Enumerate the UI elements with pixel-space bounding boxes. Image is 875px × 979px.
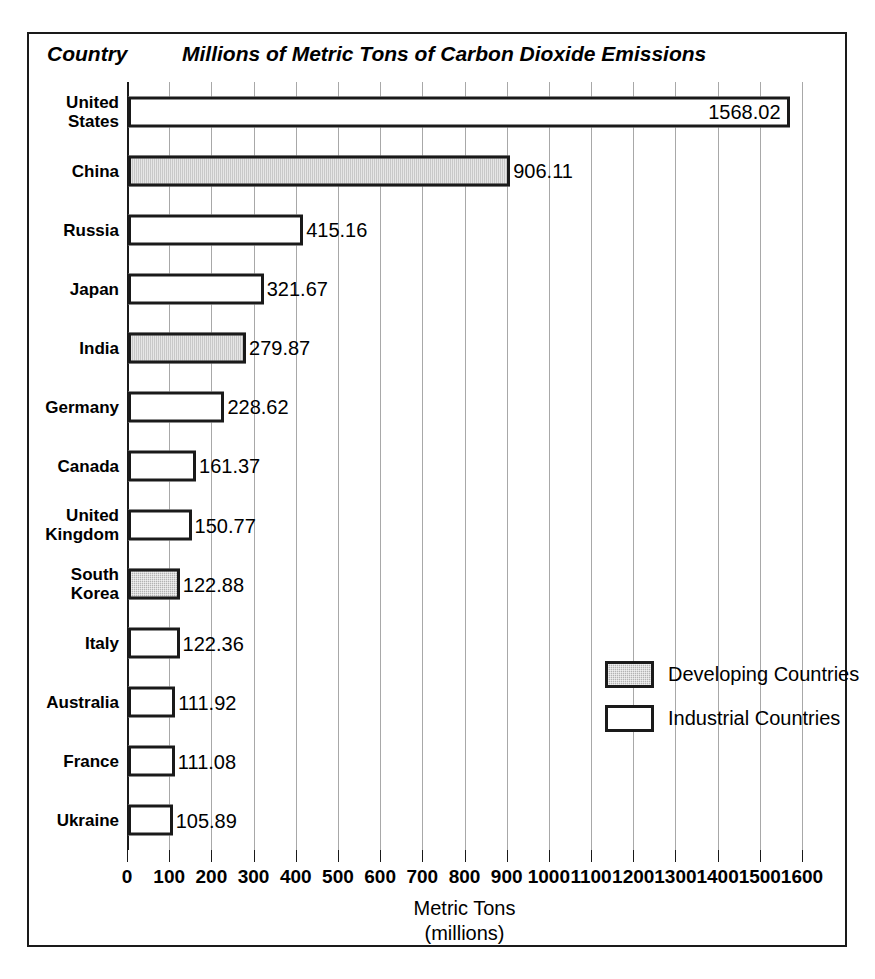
category-label-india: India — [27, 338, 119, 357]
x-tick-label-900: 900 — [491, 866, 523, 888]
bar-row: United Kingdom150.77 — [127, 496, 802, 555]
x-tick-label-400: 400 — [280, 866, 312, 888]
category-label-france: France — [27, 752, 119, 771]
x-axis-tick-labels: 0100200300400500600700800900100011001200… — [127, 866, 802, 892]
x-axis-ticks — [127, 850, 802, 864]
x-tick-label-1500: 1500 — [739, 866, 781, 888]
tick-mark-800 — [465, 850, 466, 862]
bar-row: Canada161.37 — [127, 436, 802, 495]
bar-row: United States1568.02 — [127, 82, 802, 141]
category-label-china: China — [27, 161, 119, 180]
bar-value-japan: 321.67 — [267, 279, 328, 299]
x-tick-label-300: 300 — [238, 866, 270, 888]
x-tick-label-100: 100 — [153, 866, 185, 888]
bar-value-united-kingdom: 150.77 — [195, 515, 256, 535]
x-axis-title-line1: Metric Tons — [127, 896, 802, 921]
x-axis-title: Metric Tons (millions) — [127, 896, 802, 946]
tick-mark-1500 — [760, 850, 761, 862]
bar-value-united-states: 1568.02 — [708, 102, 780, 122]
tick-mark-1600 — [802, 850, 803, 862]
tick-mark-500 — [338, 850, 339, 862]
category-label-ukraine: Ukraine — [27, 811, 119, 830]
bar-value-south-korea: 122.88 — [183, 574, 244, 594]
tick-mark-1200 — [633, 850, 634, 862]
tick-mark-700 — [422, 850, 423, 862]
chart-frame: Country Millions of Metric Tons of Carbo… — [27, 32, 847, 947]
bar-united-kingdom: 150.77 — [128, 510, 192, 541]
bar-row: India279.87 — [127, 318, 802, 377]
bar-row: China906.11 — [127, 141, 802, 200]
tick-mark-1400 — [718, 850, 719, 862]
legend-label-industrial: Industrial Countries — [668, 707, 840, 730]
tick-mark-200 — [211, 850, 212, 862]
tick-mark-0 — [127, 850, 128, 862]
x-axis-title-line2: (millions) — [127, 921, 802, 946]
x-tick-label-500: 500 — [322, 866, 354, 888]
category-label-russia: Russia — [27, 220, 119, 239]
x-tick-label-1200: 1200 — [612, 866, 654, 888]
bar-france: 111.08 — [128, 746, 175, 777]
x-tick-label-1300: 1300 — [654, 866, 696, 888]
x-tick-label-800: 800 — [449, 866, 481, 888]
x-tick-label-0: 0 — [122, 866, 133, 888]
category-label-japan: Japan — [27, 279, 119, 298]
category-label-united-kingdom: United Kingdom — [27, 506, 119, 544]
category-label-australia: Australia — [27, 693, 119, 712]
category-label-south-korea: South Korea — [27, 565, 119, 603]
x-tick-label-600: 600 — [364, 866, 396, 888]
country-column-header: Country — [47, 42, 128, 66]
bar-united-states: 1568.02 — [128, 96, 790, 127]
tick-mark-1000 — [549, 850, 550, 862]
bar-australia: 111.92 — [128, 687, 175, 718]
legend-swatch-developing — [605, 661, 654, 688]
legend-label-developing: Developing Countries — [668, 663, 859, 686]
bar-row: Russia415.16 — [127, 200, 802, 259]
legend-item: Industrial Countries — [605, 696, 875, 740]
tick-mark-1100 — [591, 850, 592, 862]
bar-germany: 228.62 — [128, 391, 224, 422]
bar-row: France111.08 — [127, 732, 802, 791]
bar-italy: 122.36 — [128, 628, 180, 659]
bar-china: 906.11 — [128, 155, 510, 186]
x-tick-label-1000: 1000 — [528, 866, 570, 888]
chart-title: Millions of Metric Tons of Carbon Dioxid… — [182, 42, 706, 66]
bar-value-australia: 111.92 — [178, 692, 236, 712]
tick-mark-300 — [254, 850, 255, 862]
tick-mark-900 — [507, 850, 508, 862]
x-tick-label-200: 200 — [196, 866, 228, 888]
x-tick-label-1100: 1100 — [570, 866, 611, 888]
x-tick-label-700: 700 — [406, 866, 438, 888]
legend-swatch-industrial — [605, 705, 654, 732]
bar-row: Japan321.67 — [127, 259, 802, 318]
category-label-united-states: United States — [27, 93, 119, 131]
bar-south-korea: 122.88 — [128, 569, 180, 600]
bar-value-germany: 228.62 — [227, 397, 288, 417]
category-label-italy: Italy — [27, 634, 119, 653]
bar-value-france: 111.08 — [178, 751, 236, 771]
legend-item: Developing Countries — [605, 652, 875, 696]
category-label-germany: Germany — [27, 397, 119, 416]
bar-value-ukraine: 105.89 — [176, 810, 237, 830]
tick-mark-100 — [169, 850, 170, 862]
tick-mark-1300 — [675, 850, 676, 862]
bar-canada: 161.37 — [128, 450, 196, 481]
bar-value-india: 279.87 — [249, 338, 310, 358]
bar-russia: 415.16 — [128, 214, 303, 245]
x-tick-label-1400: 1400 — [696, 866, 738, 888]
bar-japan: 321.67 — [128, 273, 264, 304]
tick-mark-400 — [296, 850, 297, 862]
tick-mark-600 — [380, 850, 381, 862]
bar-value-china: 906.11 — [513, 161, 573, 181]
x-tick-label-1600: 1600 — [781, 866, 823, 888]
bar-india: 279.87 — [128, 332, 246, 363]
category-label-canada: Canada — [27, 456, 119, 475]
bar-ukraine: 105.89 — [128, 805, 173, 836]
bar-row: Germany228.62 — [127, 377, 802, 436]
chart-legend: Developing CountriesIndustrial Countries — [605, 652, 875, 740]
plot-area: United States1568.02China906.11Russia415… — [127, 82, 802, 850]
bar-row: South Korea122.88 — [127, 555, 802, 614]
bar-row: Ukraine105.89 — [127, 791, 802, 850]
bar-value-canada: 161.37 — [199, 456, 260, 476]
chart-header-row: Country Millions of Metric Tons of Carbo… — [29, 42, 845, 74]
bar-value-italy: 122.36 — [183, 633, 244, 653]
